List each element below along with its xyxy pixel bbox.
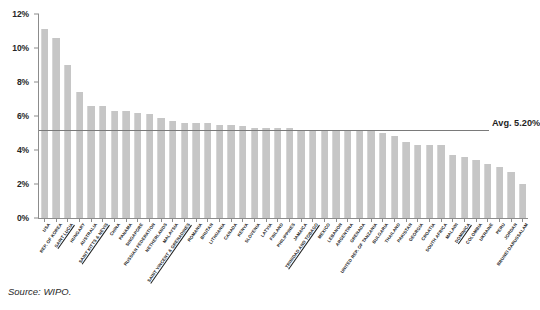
bar	[449, 155, 456, 218]
bar	[52, 38, 59, 218]
bar	[472, 160, 479, 218]
bar	[122, 111, 129, 218]
plot-area	[38, 14, 528, 218]
bar	[239, 126, 246, 218]
bar	[507, 172, 514, 218]
bar-series	[38, 14, 528, 218]
bar	[367, 131, 374, 218]
bar	[227, 125, 234, 219]
y-tick-label: 6%	[17, 111, 29, 121]
bar	[461, 157, 468, 218]
bar	[76, 92, 83, 218]
bar	[496, 167, 503, 218]
bar	[192, 123, 199, 218]
x-axis-category-label: USA	[41, 222, 51, 233]
y-tick-label: 12%	[12, 9, 29, 19]
bar	[204, 123, 211, 218]
x-axis-category-labels: USAREP. OF KOREASAINT LUCIAHUNGARYAUSTRA…	[0, 222, 536, 284]
bar	[262, 128, 269, 218]
bar	[344, 130, 351, 218]
bar	[134, 113, 141, 218]
bar	[402, 142, 409, 219]
y-tick-label: 10%	[12, 43, 29, 53]
y-tick-label: 2%	[17, 179, 29, 189]
bar	[297, 130, 304, 218]
bar	[286, 128, 293, 218]
bar	[437, 145, 444, 218]
bar	[87, 106, 94, 218]
bar	[157, 118, 164, 218]
bar	[484, 164, 491, 218]
bar	[216, 125, 223, 219]
average-line	[39, 130, 489, 131]
bar	[181, 123, 188, 218]
bar	[41, 29, 48, 218]
bar	[99, 106, 106, 218]
bar	[391, 136, 398, 218]
source-note: Source: WIPO.	[8, 286, 71, 297]
y-tick-label: 4%	[17, 145, 29, 155]
bar	[274, 128, 281, 218]
bar	[414, 145, 421, 218]
bar	[251, 128, 258, 218]
average-line-label: Avg. 5.20%	[492, 118, 540, 128]
bar	[379, 133, 386, 218]
bar	[519, 184, 526, 218]
x-axis-category-label: PERU	[495, 222, 506, 235]
bar	[321, 130, 328, 218]
bar	[356, 131, 363, 218]
bar	[64, 65, 71, 218]
bar	[169, 121, 176, 218]
bar	[332, 130, 339, 218]
bar	[309, 130, 316, 218]
bar	[426, 145, 433, 218]
bar	[111, 111, 118, 218]
y-tick-label: 8%	[17, 77, 29, 87]
